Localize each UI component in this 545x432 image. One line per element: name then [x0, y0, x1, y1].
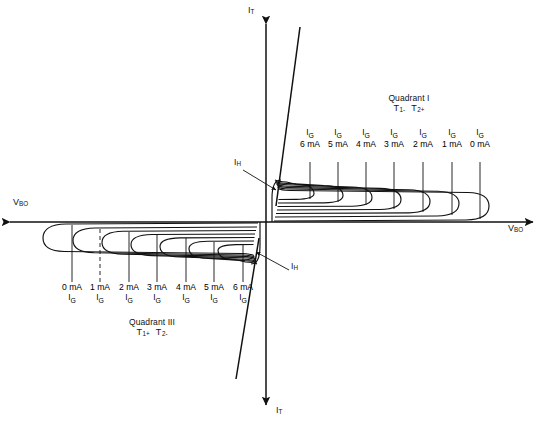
quadrant-one-title: Quadrant I — [388, 93, 429, 103]
axis-label-vbo-right: VBO — [508, 224, 523, 234]
gate-value: 0 mA — [463, 140, 497, 150]
axis-label-it-bottom: IT — [276, 406, 282, 416]
axis-label-vbo-left: VBO — [13, 198, 28, 208]
quadrant-three-terminal-notation: T1+ T2- — [104, 328, 200, 338]
gate-symbol: IG — [463, 128, 497, 140]
conduction-line-upper — [276, 27, 300, 206]
gate-value: 6 mA — [226, 283, 260, 293]
quadrant-three-curves — [43, 222, 260, 264]
triac-vi-characteristic-figure: IT IT VBO VBO IH IH Quadrant I T1- T2+ Q… — [0, 0, 545, 432]
quadrant-one-title-block: Quadrant I T1- T2+ — [364, 94, 454, 114]
quadrant-one-terminal-notation: T1- T2+ — [364, 104, 454, 114]
quadrant-three-title: Quadrant III — [129, 317, 175, 327]
pointer-ih-upper — [243, 170, 276, 190]
gate-symbol: IG — [226, 293, 260, 305]
gate-label-q3-6ma: 6 mA IG — [226, 283, 260, 304]
label-holding-current-lower: IH — [291, 262, 298, 272]
axis-label-it-top: IT — [248, 6, 254, 16]
characteristic-curve-svg — [0, 0, 545, 432]
quadrant-one-curves — [272, 180, 489, 222]
gate-label-q1-0ma: IG 0 mA — [463, 128, 497, 149]
label-holding-current-upper: IH — [234, 158, 241, 168]
pointer-ih-lower — [256, 252, 289, 270]
quadrant-three-title-block: Quadrant III T1+ T2- — [104, 318, 200, 338]
